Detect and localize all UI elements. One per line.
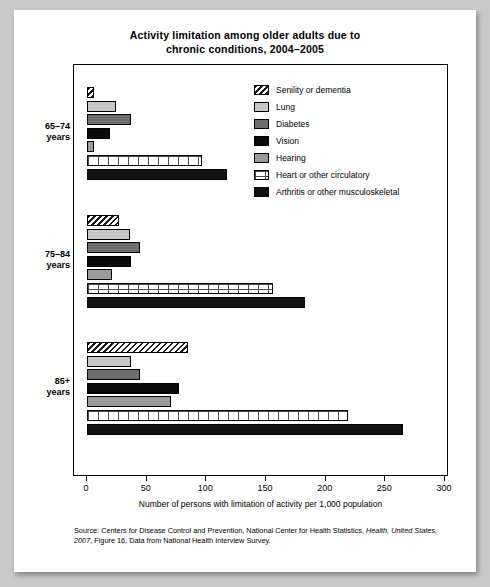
bar-65-74-years-diabetes xyxy=(87,114,131,125)
legend-label-lung: Lung xyxy=(276,102,295,112)
x-tick-0 xyxy=(86,476,87,481)
category-label-line-1: 75–84 xyxy=(18,249,70,260)
legend-swatch-arthritis-or-other-musculoskeletal xyxy=(254,187,269,197)
bar-85-years-senility-or-dementia xyxy=(87,342,188,353)
category-label-line-1: 65–74 xyxy=(18,121,70,132)
bar-65-74-years-senility-or-dementia xyxy=(87,87,94,98)
bar-75-84-years-senility-or-dementia xyxy=(87,215,119,226)
legend: Senility or dementiaLungDiabetesVisionHe… xyxy=(254,82,444,201)
x-tick-label-250: 250 xyxy=(364,483,404,493)
legend-item-lung: Lung xyxy=(254,99,444,115)
category-label-line-2: years xyxy=(18,387,70,398)
legend-swatch-senility-or-dementia xyxy=(254,85,269,95)
figure-title-line-2: chronic conditions, 2004–2005 xyxy=(166,43,324,55)
x-tick-200 xyxy=(325,476,326,481)
x-tick-150 xyxy=(265,476,266,481)
source-text-part-2: , Figure 16, Data from National Health I… xyxy=(90,536,270,545)
x-axis: 050100150200250300 xyxy=(86,476,444,477)
figure-title-line-1: Activity limitation among older adults d… xyxy=(130,29,361,41)
legend-swatch-lung xyxy=(254,102,269,112)
x-tick-label-150: 150 xyxy=(245,483,285,493)
legend-label-vision: Vision xyxy=(276,136,299,146)
x-tick-100 xyxy=(205,476,206,481)
legend-item-diabetes: Diabetes xyxy=(254,116,444,132)
bar-85-years-hearing xyxy=(87,396,171,407)
legend-swatch-hearing xyxy=(254,153,269,163)
x-tick-label-100: 100 xyxy=(185,483,225,493)
legend-swatch-vision xyxy=(254,136,269,146)
bar-65-74-years-lung xyxy=(87,101,116,112)
bar-85-years-vision xyxy=(87,383,179,394)
x-tick-250 xyxy=(384,476,385,481)
legend-item-senility-or-dementia: Senility or dementia xyxy=(254,82,444,98)
legend-label-hearing: Hearing xyxy=(276,153,306,163)
bar-85-years-heart-or-other-circulatory xyxy=(87,410,348,421)
source-text-italic-1: Health, xyxy=(366,526,389,535)
legend-item-heart-or-other-circulatory: Heart or other circulatory xyxy=(254,167,444,183)
source-text-part-1: Source: Centers for Disease Control and … xyxy=(74,526,366,535)
bar-85-years-arthritis-or-other-musculoskeletal xyxy=(87,424,403,435)
x-tick-300 xyxy=(444,476,445,481)
category-label-line-2: years xyxy=(18,132,70,143)
x-tick-50 xyxy=(146,476,147,481)
category-label-75-84-years: 75–84years xyxy=(18,249,70,271)
bar-65-74-years-vision xyxy=(87,128,110,139)
screenshot-page: Activity limitation among older adults d… xyxy=(0,0,490,587)
legend-label-arthritis-or-other-musculoskeletal: Arthritis or other musculoskeletal xyxy=(276,187,399,197)
x-axis-title: Number of persons with limitation of act… xyxy=(73,499,448,509)
legend-label-senility-or-dementia: Senility or dementia xyxy=(276,85,351,95)
bar-75-84-years-lung xyxy=(87,229,130,240)
bar-85-years-lung xyxy=(87,356,131,367)
bar-65-74-years-arthritis-or-other-musculoskeletal xyxy=(87,169,227,180)
bar-75-84-years-hearing xyxy=(87,269,112,280)
figure-title: Activity limitation among older adults d… xyxy=(14,28,476,56)
bar-65-74-years-hearing xyxy=(87,141,94,152)
bar-75-84-years-diabetes xyxy=(87,242,140,253)
x-tick-label-50: 50 xyxy=(126,483,166,493)
bar-75-84-years-heart-or-other-circulatory xyxy=(87,283,273,294)
legend-label-heart-or-other-circulatory: Heart or other circulatory xyxy=(276,170,370,180)
legend-item-hearing: Hearing xyxy=(254,150,444,166)
legend-item-arthritis-or-other-musculoskeletal: Arthritis or other musculoskeletal xyxy=(254,184,444,200)
legend-item-vision: Vision xyxy=(254,133,444,149)
legend-swatch-heart-or-other-circulatory xyxy=(254,170,269,180)
bar-65-74-years-heart-or-other-circulatory xyxy=(87,155,202,166)
figure-card: Activity limitation among older adults d… xyxy=(14,10,476,572)
x-tick-label-0: 0 xyxy=(66,483,106,493)
category-label-85-years: 85+years xyxy=(18,376,70,398)
category-label-line-1: 85+ xyxy=(18,376,70,387)
legend-label-diabetes: Diabetes xyxy=(276,119,310,129)
source-note: Source: Centers for Disease Control and … xyxy=(74,526,454,546)
x-tick-label-200: 200 xyxy=(305,483,345,493)
category-label-line-2: years xyxy=(18,260,70,271)
category-label-65-74-years: 65–74years xyxy=(18,121,70,143)
bar-85-years-diabetes xyxy=(87,369,140,380)
legend-swatch-diabetes xyxy=(254,119,269,129)
bar-75-84-years-arthritis-or-other-musculoskeletal xyxy=(87,297,305,308)
x-tick-label-300: 300 xyxy=(424,483,464,493)
bar-75-84-years-vision xyxy=(87,256,131,267)
